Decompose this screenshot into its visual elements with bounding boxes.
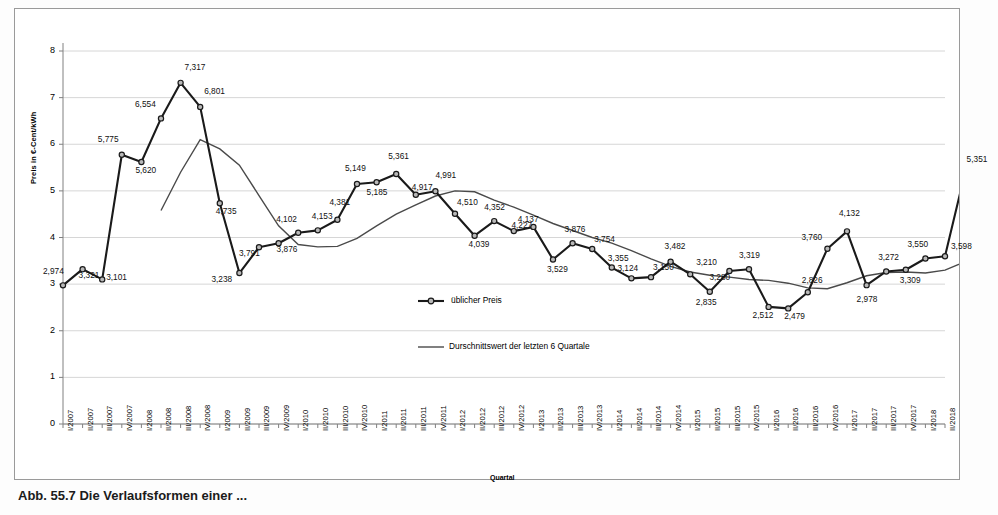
data-label: 2,974 [43, 266, 64, 276]
data-label: 3,482 [665, 241, 686, 251]
x-tick-label: IV/2017 [909, 405, 918, 431]
x-tick-label: III/2009 [262, 406, 271, 431]
x-tick-label: I/2018 [929, 410, 938, 431]
data-label: 2,826 [802, 275, 823, 285]
x-tick-label: I/2014 [615, 410, 624, 431]
x-tick-label: II/2014 [635, 408, 644, 431]
x-tick-label: I/2017 [850, 410, 859, 431]
data-label: 4,153 [312, 211, 333, 221]
x-tick-label: IV/2010 [360, 405, 369, 431]
y-tick-label: 6 [41, 138, 55, 148]
data-label: 4,735 [216, 206, 237, 216]
data-label: 3,319 [739, 250, 760, 260]
legend-item-ueblicher-preis: üblicher Preis [451, 295, 502, 305]
data-label: 3,309 [900, 275, 921, 285]
data-label: 2,479 [784, 311, 805, 321]
x-tick-label: II/2010 [321, 408, 330, 431]
x-tick-label: I/2012 [458, 410, 467, 431]
x-tick-label: II/2013 [556, 408, 565, 431]
x-tick-label: IV/2014 [674, 405, 683, 431]
data-label: 4,132 [839, 208, 860, 218]
x-tick-label: IV/2015 [752, 405, 761, 431]
data-label: 3,280 [709, 272, 730, 282]
data-label: 3,272 [878, 252, 899, 262]
x-tick-label: I/2008 [145, 410, 154, 431]
x-tick-label: IV/2008 [203, 405, 212, 431]
x-tick-label: II/2007 [86, 408, 95, 431]
x-tick-label: III/2010 [341, 406, 350, 431]
x-tick-label: II/2008 [164, 408, 173, 431]
x-tick-label: III/2007 [105, 406, 114, 431]
x-tick-label: II/2009 [243, 408, 252, 431]
x-tick-label: IV/2007 [125, 405, 134, 431]
data-label: 3,238 [211, 274, 232, 284]
x-tick-label: I/2011 [380, 410, 389, 431]
y-tick-label: 8 [41, 45, 55, 55]
data-label: 7,317 [185, 62, 206, 72]
y-tick-label: 1 [41, 371, 55, 381]
data-label: 3,321 [79, 270, 100, 280]
x-tick-label: II/2015 [713, 408, 722, 431]
data-label: 5,775 [98, 134, 119, 144]
data-label: 2,978 [857, 294, 878, 304]
x-tick-label: I/2015 [693, 410, 702, 431]
data-label: 3,355 [608, 253, 629, 263]
y-tick-label: 2 [41, 325, 55, 335]
data-label: 3,754 [594, 234, 615, 244]
y-tick-label: 7 [41, 92, 55, 102]
x-tick-label: I/2007 [66, 410, 75, 431]
y-tick-label: 0 [41, 418, 55, 428]
x-tick-label: III/2016 [811, 406, 820, 431]
x-tick-label: III/2015 [733, 406, 742, 431]
data-label: 3,529 [547, 264, 568, 274]
data-label: 6,554 [135, 99, 156, 109]
data-label: 3,876 [565, 224, 586, 234]
data-label: 3,598 [951, 241, 972, 251]
data-label: 3,550 [907, 239, 928, 249]
data-label: 4,227 [511, 220, 532, 230]
x-tick-label: III/2017 [889, 406, 898, 431]
data-label: 3,210 [696, 257, 717, 267]
x-axis-title: Quartal [490, 474, 515, 481]
x-tick-label: II/2012 [478, 408, 487, 431]
data-label: 5,361 [388, 151, 409, 161]
x-tick-label: IV/2013 [595, 405, 604, 431]
y-tick-label: 3 [41, 278, 55, 288]
x-tick-label: IV/2011 [439, 405, 448, 431]
data-label: 6,801 [204, 86, 225, 96]
data-label: 4,102 [276, 214, 297, 224]
data-label: 2,512 [753, 310, 774, 320]
x-tick-label: III/2011 [419, 406, 428, 431]
x-tick-label: IV/2009 [282, 405, 291, 431]
x-tick-label: III/2008 [184, 406, 193, 431]
data-label: 4,917 [412, 182, 433, 192]
x-tick-label: I/2016 [772, 410, 781, 431]
figure-root: Preis in €-Cent/kWh 012345678 I/2007II/2… [0, 0, 998, 515]
data-label: 3,791 [239, 248, 260, 258]
x-tick-label: I/2010 [301, 410, 310, 431]
x-tick-label: I/2013 [537, 410, 546, 431]
y-tick-label: 4 [41, 232, 55, 242]
data-label: 3,876 [277, 244, 298, 254]
x-tick-label: II/2017 [870, 408, 879, 431]
y-tick-label: 5 [41, 185, 55, 195]
figure-caption-text: Die Verlaufsformen einer ... [79, 488, 247, 503]
x-tick-label: III/2012 [497, 406, 506, 431]
data-label: 2,835 [696, 297, 717, 307]
figure-number: Abb. 55.7 [18, 488, 76, 503]
data-label: 3,124 [617, 263, 638, 273]
data-label: 4,039 [469, 239, 490, 249]
x-tick-label: III/2014 [654, 406, 663, 431]
data-label: 4,381 [329, 197, 350, 207]
data-label: 5,185 [367, 187, 388, 197]
x-tick-label: IV/2012 [517, 405, 526, 431]
x-tick-label: I/2009 [223, 410, 232, 431]
data-label: 3,101 [106, 272, 127, 282]
data-label: 5,620 [135, 165, 156, 175]
x-tick-label: II/2016 [791, 408, 800, 431]
chart-frame: Preis in €-Cent/kWh 012345678 I/2007II/2… [14, 8, 960, 480]
data-label: 3,150 [653, 262, 674, 272]
data-label: 5,351 [967, 154, 988, 164]
figure-caption: Abb. 55.7 Die Verlaufsformen einer ... [18, 488, 247, 514]
data-label: 5,149 [345, 163, 366, 173]
